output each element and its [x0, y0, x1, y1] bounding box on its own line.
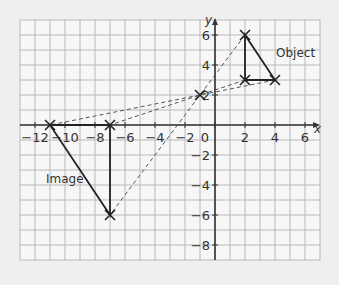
- y-tick-label: −6: [191, 208, 210, 223]
- enlargement-diagram: −12−10−8−6−4−20246642−2−4−6−8 Object Ima…: [0, 0, 339, 285]
- x-tick-label: −12: [21, 130, 48, 145]
- y-tick-label: −2: [191, 148, 210, 163]
- y-tick-label: −8: [191, 238, 210, 253]
- image-label: Image: [46, 172, 84, 186]
- x-tick-label: −8: [85, 130, 104, 145]
- y-tick-label: 6: [202, 28, 210, 43]
- x-axis-label: x: [313, 122, 322, 136]
- x-tick-label: 6: [301, 130, 309, 145]
- object-label: Object: [276, 46, 315, 60]
- x-tick-label: 4: [271, 130, 279, 145]
- y-axis-label: y: [204, 13, 213, 27]
- x-tick-label: 2: [241, 130, 249, 145]
- x-tick-label: 0: [201, 130, 209, 145]
- y-tick-label: 4: [202, 58, 210, 73]
- x-tick-label: −6: [115, 130, 134, 145]
- y-tick-label: −4: [191, 178, 210, 193]
- x-tick-label: −2: [175, 130, 194, 145]
- y-tick-label: 2: [202, 88, 210, 103]
- x-tick-label: −4: [145, 130, 164, 145]
